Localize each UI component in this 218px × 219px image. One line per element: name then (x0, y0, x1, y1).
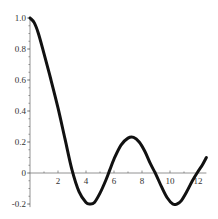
x-tick-label: 10 (166, 176, 176, 186)
y-tick-label: 0.2 (15, 137, 26, 147)
y-tick-label: -0.2 (12, 199, 26, 209)
x-tick-label: 2 (56, 176, 61, 186)
y-tick-label: 1.0 (15, 13, 27, 23)
x-tick-label: 6 (112, 176, 117, 186)
y-axis-ticks: -0.200.20.40.60.81.0 (12, 13, 30, 209)
x-tick-label: 4 (84, 176, 89, 186)
y-tick-label: 0.4 (15, 106, 27, 116)
line-chart: -0.200.20.40.60.81.0 24681012 (0, 0, 218, 219)
y-tick-label: 0 (22, 168, 27, 178)
y-tick-label: 0.8 (15, 44, 27, 54)
y-tick-label: 0.6 (15, 75, 27, 85)
x-tick-label: 8 (140, 176, 145, 186)
